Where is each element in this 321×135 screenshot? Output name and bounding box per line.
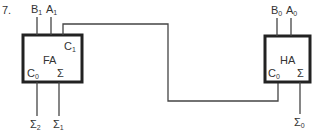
problem-number: 7. — [2, 5, 11, 16]
fa-output-sum1: Σ1 — [53, 119, 64, 133]
ha-sum-label: Σ — [297, 68, 304, 79]
fa-input-a1: A1 — [46, 4, 57, 18]
fa-carry-out-label: C1 — [64, 41, 76, 55]
fa-output-sum2: Σ2 — [30, 119, 41, 133]
ha-input-a0: A0 — [286, 5, 297, 19]
fa-carry-in-label: C0 — [27, 68, 39, 82]
carry-wire — [63, 24, 278, 101]
ha-title: HA — [280, 55, 295, 66]
adder-diagram: 7. B1 A1 C1 FA C0 Σ Σ2 Σ1 B0 A0 HA C0 Σ … — [0, 0, 321, 135]
ha-output-sum0: Σ0 — [294, 117, 305, 131]
ha-carry-in-label: C0 — [268, 68, 280, 82]
ha-input-b0: B0 — [271, 5, 282, 19]
fa-title: FA — [43, 55, 56, 66]
fa-input-b1: B1 — [31, 4, 42, 18]
fa-sum-label: Σ — [57, 68, 64, 79]
